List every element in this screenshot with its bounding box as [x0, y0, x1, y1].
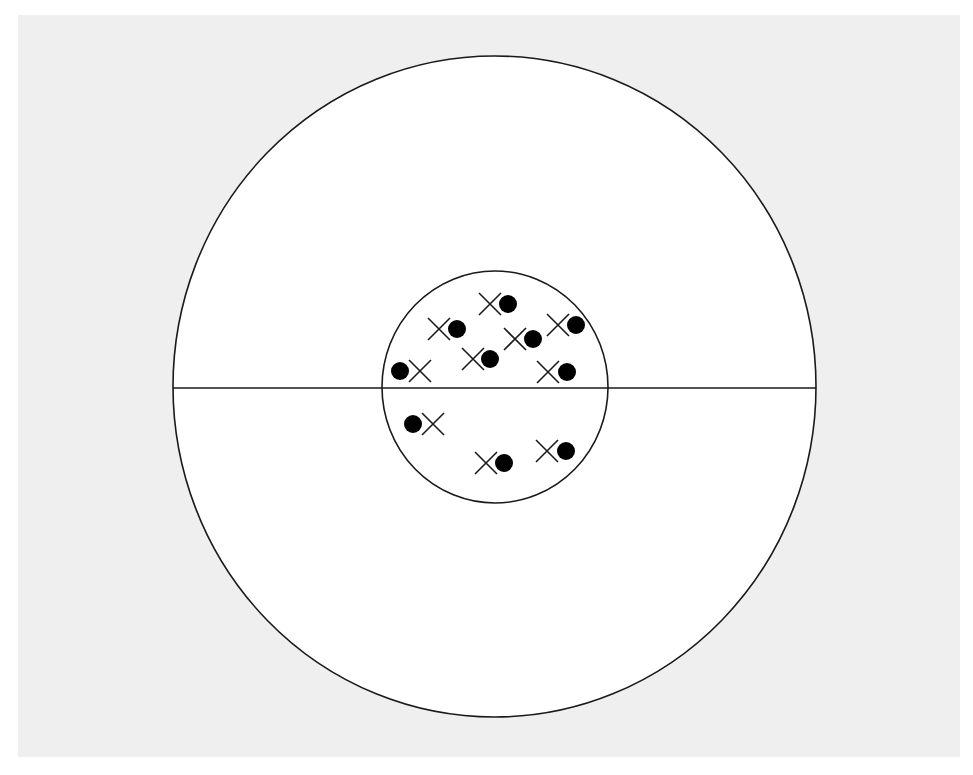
dot-marker-icon: [499, 295, 517, 313]
dot-marker-icon: [557, 442, 575, 460]
dot-marker-icon: [404, 415, 422, 433]
dot-marker-icon: [448, 320, 466, 338]
dot-marker-icon: [558, 363, 576, 381]
dot-marker-icon: [495, 454, 513, 472]
diagram-canvas: [0, 0, 973, 775]
dot-marker-icon: [391, 362, 409, 380]
dot-marker-icon: [524, 330, 542, 348]
dot-marker-icon: [567, 316, 585, 334]
outer-circle: [173, 56, 816, 717]
dot-marker-icon: [481, 350, 499, 368]
